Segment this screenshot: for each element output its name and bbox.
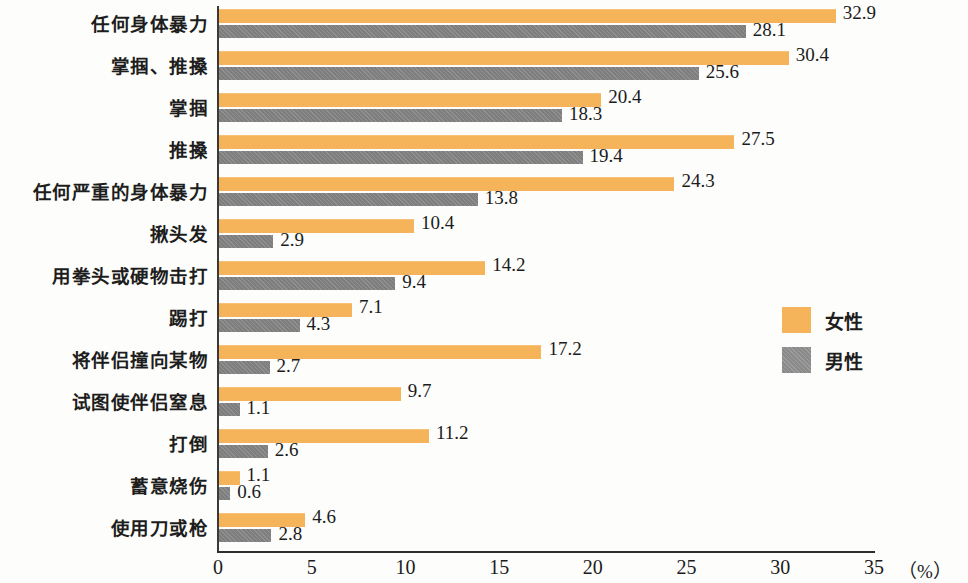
bar-value-label-male: 25.6	[706, 61, 739, 83]
category-label: 将伴侣撞向某物	[0, 340, 208, 382]
bar-male	[219, 487, 230, 500]
bar-female	[219, 9, 836, 23]
legend-label-female: 女性	[825, 307, 863, 334]
bar-value-label-male: 0.6	[237, 481, 261, 503]
x-axis-tick-label: 35	[844, 556, 904, 579]
bar-male	[219, 151, 583, 164]
bar-value-label-male: 19.4	[590, 145, 623, 167]
bar-row: 打倒11.22.6	[0, 424, 968, 466]
bar-row: 任何严重的身体暴力24.313.8	[0, 172, 968, 214]
bar-group: 32.928.1	[219, 4, 968, 46]
bar-row: 蓄意烧伤1.10.6	[0, 466, 968, 508]
category-label: 掌掴、推搡	[0, 46, 208, 88]
bar-group: 27.519.4	[219, 130, 968, 172]
x-axis-tick-label: 30	[750, 556, 810, 579]
bar-female	[219, 177, 674, 191]
category-label: 用拳头或硬物击打	[0, 256, 208, 298]
bar-row: 掌掴、推搡30.425.6	[0, 46, 968, 88]
bar-group: 24.313.8	[219, 172, 968, 214]
category-label: 试图使伴侣窒息	[0, 382, 208, 424]
bar-value-label-male: 9.4	[402, 271, 426, 293]
bar-row: 揪头发10.42.9	[0, 214, 968, 256]
category-label: 踢打	[0, 298, 208, 340]
bar-group: 30.425.6	[219, 46, 968, 88]
bar-chart: 任何身体暴力32.928.1掌掴、推搡30.425.6掌掴20.418.3推搡2…	[0, 0, 968, 583]
bar-female	[219, 51, 789, 65]
bar-male	[219, 109, 562, 122]
bar-female	[219, 345, 541, 359]
bar-group: 20.418.3	[219, 88, 968, 130]
bar-female	[219, 261, 485, 275]
bar-male	[219, 67, 699, 80]
bar-value-label-female: 11.2	[436, 422, 469, 444]
bar-row: 任何身体暴力32.928.1	[0, 4, 968, 46]
bar-value-label-male: 4.3	[307, 313, 331, 335]
x-axis-tick-label: 20	[563, 556, 623, 579]
bar-group: 11.22.6	[219, 424, 968, 466]
bar-male	[219, 403, 240, 416]
bar-value-label-female: 32.9	[843, 2, 876, 24]
bar-value-label-male: 18.3	[569, 103, 602, 125]
bar-value-label-male: 2.6	[275, 439, 299, 461]
category-label: 任何身体暴力	[0, 4, 208, 46]
category-label: 推搡	[0, 130, 208, 172]
bar-male	[219, 529, 271, 542]
bar-value-label-female: 20.4	[608, 86, 641, 108]
x-axis-line	[217, 551, 875, 553]
x-axis-tick-label: 25	[657, 556, 717, 579]
bar-group: 14.29.4	[219, 256, 968, 298]
legend-swatch-male-icon	[782, 347, 811, 373]
category-label: 使用刀或枪	[0, 508, 208, 550]
bar-female	[219, 429, 429, 443]
bar-value-label-female: 24.3	[681, 170, 714, 192]
bar-value-label-female: 14.2	[492, 254, 525, 276]
bar-group: 9.71.1	[219, 382, 968, 424]
bar-male	[219, 25, 746, 38]
bar-row: 试图使伴侣窒息9.71.1	[0, 382, 968, 424]
legend-item-female: 女性	[782, 300, 863, 340]
bar-male	[219, 319, 300, 332]
bar-group: 10.42.9	[219, 214, 968, 256]
bar-value-label-female: 9.7	[408, 380, 432, 402]
bar-male	[219, 361, 270, 374]
bar-group: 4.62.8	[219, 508, 968, 550]
legend: 女性 男性	[782, 300, 863, 380]
bar-male	[219, 235, 273, 248]
bar-group: 1.10.6	[219, 466, 968, 508]
bar-value-label-male: 28.1	[753, 19, 786, 41]
bar-row: 推搡27.519.4	[0, 130, 968, 172]
bar-value-label-female: 17.2	[548, 338, 581, 360]
x-axis-tick-label: 10	[375, 556, 435, 579]
legend-swatch-female-icon	[782, 307, 811, 333]
bar-value-label-male: 2.7	[277, 355, 301, 377]
bar-value-label-male: 13.8	[485, 187, 518, 209]
x-axis-unit-label: （%）	[898, 556, 952, 583]
bar-value-label-female: 4.6	[312, 506, 336, 528]
bar-female	[219, 303, 352, 317]
bar-value-label-female: 30.4	[796, 44, 829, 66]
category-label: 揪头发	[0, 214, 208, 256]
bar-female	[219, 219, 414, 233]
bar-female	[219, 135, 734, 149]
bar-value-label-male: 2.8	[278, 523, 302, 545]
plot-area: 任何身体暴力32.928.1掌掴、推搡30.425.6掌掴20.418.3推搡2…	[0, 0, 968, 583]
bar-value-label-female: 27.5	[741, 128, 774, 150]
bar-row: 使用刀或枪4.62.8	[0, 508, 968, 550]
bar-value-label-male: 2.9	[280, 229, 304, 251]
category-label: 掌掴	[0, 88, 208, 130]
bar-female	[219, 93, 601, 107]
bar-value-label-male: 1.1	[247, 397, 271, 419]
x-axis-tick-label: 15	[469, 556, 529, 579]
x-axis-tick-label: 0	[188, 556, 248, 579]
x-axis-tick-label: 5	[282, 556, 342, 579]
bar-row: 用拳头或硬物击打14.29.4	[0, 256, 968, 298]
bar-male	[219, 277, 395, 290]
bar-male	[219, 193, 478, 206]
category-label: 任何严重的身体暴力	[0, 172, 208, 214]
legend-label-male: 男性	[825, 347, 863, 374]
bar-row: 掌掴20.418.3	[0, 88, 968, 130]
bar-value-label-female: 7.1	[359, 296, 383, 318]
category-label: 打倒	[0, 424, 208, 466]
bar-male	[219, 445, 268, 458]
category-label: 蓄意烧伤	[0, 466, 208, 508]
